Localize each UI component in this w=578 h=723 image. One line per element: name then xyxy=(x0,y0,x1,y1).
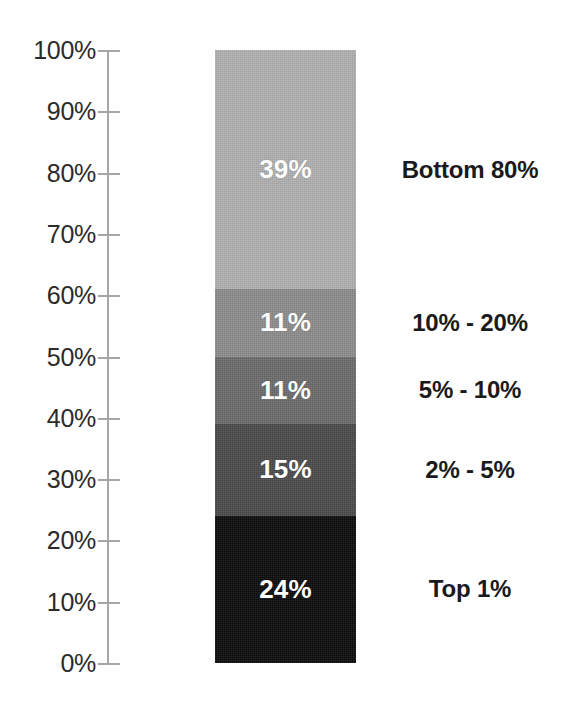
y-axis-tick xyxy=(98,50,120,52)
bar-segment-category-label: 2% - 5% xyxy=(372,456,568,484)
stacked-bar: 39%11%11%15%24% xyxy=(215,50,356,663)
bar-segment-category-label: 10% - 20% xyxy=(372,309,568,337)
y-axis-tick-label: 0% xyxy=(60,649,96,678)
bar-segment-value-label: 39% xyxy=(259,154,312,185)
y-axis-tick-label: 70% xyxy=(47,219,96,248)
bar-segment: 39% xyxy=(215,50,356,289)
bar-segment: 11% xyxy=(215,357,356,424)
y-axis-line xyxy=(107,50,109,663)
y-axis-tick xyxy=(98,602,120,604)
bar-segment-value-label: 11% xyxy=(260,375,311,406)
y-axis-tick xyxy=(98,173,120,175)
y-axis-tick-label: 40% xyxy=(47,403,96,432)
bar-segment-value-label: 24% xyxy=(259,574,312,605)
y-axis-tick xyxy=(98,540,120,542)
y-axis-tick xyxy=(98,357,120,359)
bar-segment: 11% xyxy=(215,289,356,356)
bar-segment: 15% xyxy=(215,424,356,516)
y-axis-tick xyxy=(98,479,120,481)
y-axis-tick-label: 60% xyxy=(47,281,96,310)
y-axis-tick xyxy=(98,418,120,420)
y-axis-labels: 100%90%80%70%60%50%40%30%20%10%0% xyxy=(0,50,96,663)
y-axis-tick xyxy=(98,663,120,665)
bar-segment-category-label: Bottom 80% xyxy=(372,156,568,184)
stacked-bar-chart: 100%90%80%70%60%50%40%30%20%10%0% 39%11%… xyxy=(0,0,578,723)
y-axis-tick-label: 50% xyxy=(47,342,96,371)
bar-segment-value-label: 11% xyxy=(260,307,311,338)
y-axis-tick-label: 30% xyxy=(47,465,96,494)
y-axis-tick-label: 10% xyxy=(47,587,96,616)
y-axis-tick-label: 90% xyxy=(47,97,96,126)
y-axis-tick xyxy=(98,111,120,113)
bar-segment-category-label: Top 1% xyxy=(372,575,568,603)
y-axis-tick xyxy=(98,295,120,297)
category-labels: Bottom 80%10% - 20%5% - 10%2% - 5%Top 1% xyxy=(372,50,578,663)
bar-segment-category-label: 5% - 10% xyxy=(372,376,568,404)
y-axis-tick-label: 20% xyxy=(47,526,96,555)
y-axis-tick-label: 100% xyxy=(33,36,96,65)
bar-segment: 24% xyxy=(215,516,356,663)
y-axis-tick-label: 80% xyxy=(47,158,96,187)
y-axis-tick xyxy=(98,234,120,236)
bar-segment-value-label: 15% xyxy=(259,454,312,485)
